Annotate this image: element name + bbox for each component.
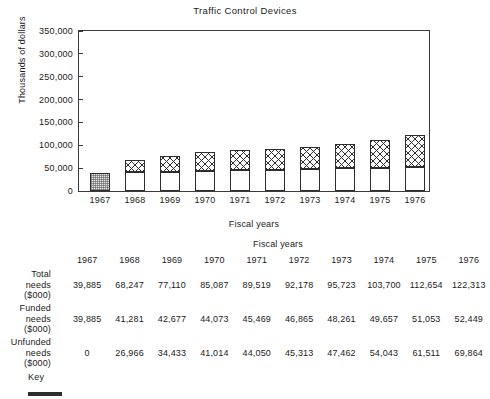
table-row-label-line: Funded [0, 303, 61, 314]
table-column-header: 1967 [66, 252, 108, 268]
table-row: Fundedneeds($000)39,88541,28142,67744,07… [0, 302, 490, 336]
table-row-label-line: ($000) [0, 290, 61, 301]
table-cell: 42,677 [151, 302, 193, 336]
bar-segment-funded [300, 169, 320, 191]
bar-group[interactable]: 1972 [265, 31, 285, 191]
bar-group[interactable]: 1968 [125, 31, 145, 191]
y-tick-label: 50,000 [44, 163, 79, 173]
table-cell: 52,449 [448, 302, 490, 336]
table-column-header: 1975 [405, 252, 447, 268]
table-cell: 77,110 [151, 268, 193, 302]
bar-segment-funded [160, 172, 180, 192]
table-cell: 49,657 [363, 302, 405, 336]
bar-group[interactable]: 1969 [160, 31, 180, 191]
x-axis-label: Fiscal years [78, 219, 430, 229]
table-row-label: Totalneeds($000) [0, 268, 66, 302]
bar-segment-funded [125, 172, 145, 191]
table-cell: 44,050 [236, 336, 278, 370]
table-column-header: 1969 [151, 252, 193, 268]
table-row: Unfundedneeds($000)026,96634,43341,01444… [0, 336, 490, 370]
table-cell: 44,073 [193, 302, 235, 336]
table-column-header: 1976 [448, 252, 490, 268]
bar-segment-unfunded [370, 140, 390, 168]
table-column-header: 1972 [278, 252, 320, 268]
table-cell: 69,864 [448, 336, 490, 370]
table-caption: Fiscal years [66, 236, 490, 252]
bar-segment-unfunded [125, 160, 145, 172]
chart-key: Key [28, 372, 62, 396]
table-row-label-line: ($000) [0, 358, 61, 369]
table-cell: 45,313 [278, 336, 320, 370]
table-cell: 112,654 [405, 268, 447, 302]
y-tick-label: 300,000 [39, 49, 79, 59]
table-column-header: 1971 [236, 252, 278, 268]
table-cell: 103,700 [363, 268, 405, 302]
bar-segment-funded [405, 167, 425, 191]
table-cell: 26,966 [108, 336, 150, 370]
y-tick-label: 350,000 [39, 26, 79, 36]
table-cell: 51,053 [405, 302, 447, 336]
y-tick-label: 150,000 [39, 117, 79, 127]
table-cell: 41,014 [193, 336, 235, 370]
table-row-label-line: Unfunded [0, 337, 61, 348]
bar-segment-funded [195, 171, 215, 191]
table-cell: 92,178 [278, 268, 320, 302]
table-row: Totalneeds($000)39,88568,24777,11085,087… [0, 268, 490, 302]
table-row-label-line: ($000) [0, 324, 61, 335]
y-axis-label: Thousands of dollars [17, 0, 27, 120]
table-row-label-line: Total [0, 269, 61, 280]
bar-segment-unfunded [195, 152, 215, 171]
table-cell: 41,281 [108, 302, 150, 336]
bar-segment-funded [265, 170, 285, 191]
table-row-label-line: needs [0, 280, 61, 291]
bar-segment-unfunded [230, 150, 250, 170]
table-header-corner [0, 252, 66, 268]
table-cell: 39,885 [66, 268, 108, 302]
bar-group[interactable]: 1975 [370, 31, 390, 191]
plot-area: 050,000100,000150,000200,000250,000300,0… [78, 30, 430, 192]
table-cell: 122,313 [448, 268, 490, 302]
table-body: Totalneeds($000)39,88568,24777,11085,087… [0, 268, 490, 370]
key-swatch [28, 392, 62, 396]
bar-group[interactable]: 1967 [90, 31, 110, 191]
table-column-header: 1973 [320, 252, 362, 268]
table-row-label-line: needs [0, 314, 61, 325]
table-cell: 47,462 [320, 336, 362, 370]
bar-group[interactable]: 1971 [230, 31, 250, 191]
bar-series-group: 1967196819691970197119721973197419751976 [79, 31, 429, 191]
table-column-header: 1968 [108, 252, 150, 268]
table-row-label-line: needs [0, 348, 61, 359]
table-cell: 61,511 [405, 336, 447, 370]
bar-segment-funded [335, 168, 355, 191]
table-cell: 34,433 [151, 336, 193, 370]
chart-title: Traffic Control Devices [0, 5, 490, 16]
table-cell: 46,865 [278, 302, 320, 336]
bar-segment-funded [230, 170, 250, 191]
table-caption-row: Fiscal years [0, 236, 490, 252]
bar-segment-unfunded [405, 135, 425, 167]
table-column-header: 1970 [193, 252, 235, 268]
bar-segment-unfunded [335, 144, 355, 169]
table-header-row: 1967196819691970197119721973197419751976 [0, 252, 490, 268]
table-cell: 0 [66, 336, 108, 370]
bar-group[interactable]: 1974 [335, 31, 355, 191]
table-row-label: Unfundedneeds($000) [0, 336, 66, 370]
table-cell: 85,087 [193, 268, 235, 302]
y-tick-label: 200,000 [39, 95, 79, 105]
bar-segment-unfunded [160, 156, 180, 172]
table-cell: 68,247 [108, 268, 150, 302]
bar-group[interactable]: 1973 [300, 31, 320, 191]
table-caption-spacer [0, 236, 66, 252]
table-cell: 39,885 [66, 302, 108, 336]
key-label: Key [28, 372, 62, 382]
table-cell: 45,469 [236, 302, 278, 336]
y-tick-label: 250,000 [39, 72, 79, 82]
y-tick-label: 100,000 [39, 140, 79, 150]
data-table: Fiscal years 196719681969197019711972197… [0, 236, 490, 370]
table-cell: 54,043 [363, 336, 405, 370]
table-row-label: Fundedneeds($000) [0, 302, 66, 336]
bar-group[interactable]: 1976 [405, 31, 425, 191]
table-column-header: 1974 [363, 252, 405, 268]
bar-group[interactable]: 1970 [195, 31, 215, 191]
bar-segment-funded [370, 168, 390, 191]
